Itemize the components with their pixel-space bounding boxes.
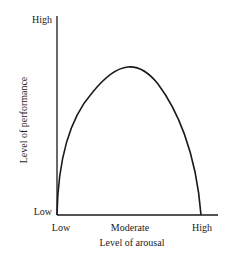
y-tick-low: Low bbox=[20, 207, 52, 217]
performance-curve bbox=[57, 67, 201, 215]
x-tick-moderate: Moderate bbox=[111, 223, 149, 233]
inverted-u-chart bbox=[0, 0, 232, 259]
y-tick-high: High bbox=[20, 15, 52, 25]
y-axis-label: Level of performance bbox=[19, 65, 29, 175]
x-tick-high: High bbox=[192, 223, 212, 233]
x-tick-low: Low bbox=[52, 223, 70, 233]
x-axis-label: Level of arousal bbox=[100, 238, 165, 248]
